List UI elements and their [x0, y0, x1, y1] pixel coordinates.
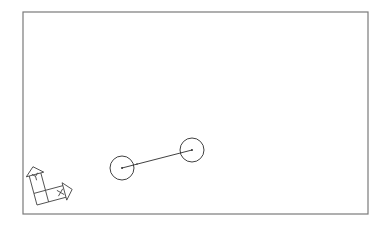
- center-point-right: [191, 149, 193, 151]
- connecting-line[interactable]: [122, 150, 192, 168]
- drawing-entities: [110, 138, 204, 180]
- ucs-y-shaft: [29, 173, 45, 193]
- ucs-y-arrowhead: [24, 164, 43, 176]
- viewport-frame: [23, 12, 368, 214]
- line-vertex-marker: [136, 163, 137, 164]
- center-point-left: [121, 167, 123, 169]
- drawing-canvas[interactable]: [0, 0, 391, 228]
- ucs-icon: [24, 158, 74, 208]
- ucs-x-arrowhead: [62, 181, 74, 200]
- ucs-x-label: [57, 189, 64, 196]
- ucs-origin-square: [34, 190, 49, 205]
